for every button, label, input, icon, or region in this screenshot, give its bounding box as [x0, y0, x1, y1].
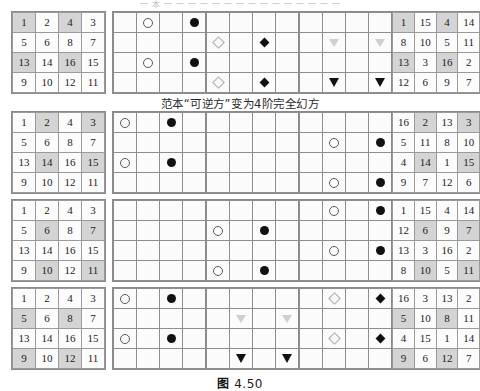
marker-cell-empty [369, 113, 392, 133]
number-cell: 3 [82, 113, 105, 133]
marker-cell-empty [276, 133, 299, 153]
number-cell: 7 [82, 221, 105, 241]
marker-cell-empty [369, 221, 392, 241]
circle-fill-glyph [376, 206, 385, 215]
triangle-open-glyph [236, 315, 246, 323]
number-cell: 9 [393, 349, 415, 369]
number-grid: 12435687131416159101211 [12, 288, 105, 369]
marker-cell-empty [230, 329, 253, 349]
number-cell: 16 [59, 241, 82, 261]
marker-cell-empty [183, 133, 206, 153]
marker-cell-circle-open [207, 221, 230, 241]
number-cell: 2 [36, 201, 59, 221]
grid-row4-markers-diamonds [299, 288, 392, 369]
marker-cell-empty [160, 349, 183, 369]
marker-cell-triangle-open [369, 33, 392, 53]
marker-cell-empty [183, 113, 206, 133]
triangle-fill-icon [323, 73, 345, 92]
circle-open-icon [137, 13, 159, 32]
marker-cell-empty [346, 13, 369, 33]
grid-row [207, 53, 299, 73]
marker-cell-empty [253, 153, 276, 173]
circle-open-glyph [329, 138, 339, 148]
marker-cell-empty [346, 113, 369, 133]
marker-cell-empty [207, 53, 230, 73]
number-cell: 15 [458, 153, 480, 173]
number-cell: 4 [59, 113, 82, 133]
number-cell: 6 [36, 33, 59, 53]
marker-cell-empty [160, 73, 183, 93]
circle-fill-icon [160, 289, 182, 308]
number-cell: 14 [36, 153, 59, 173]
number-cell: 11 [82, 173, 105, 193]
marker-grid [206, 112, 299, 193]
marker-cell-empty [276, 289, 299, 309]
number-cell: 15 [82, 53, 105, 73]
number-cell: 8 [393, 261, 415, 281]
number-cell: 11 [458, 309, 480, 329]
grid-row4-numbers-left: 12435687131416159101211 [12, 288, 105, 369]
scanned-header-fragment: 一 本 一 一 一 一 一 一 一 一 一 一 一 一 一 一 一 [0, 0, 480, 9]
figure-page: 1243568713141615910121111541481051113316… [0, 9, 480, 391]
marker-cell-empty [207, 153, 230, 173]
marker-cell-empty [230, 289, 253, 309]
number-cell: 2 [458, 53, 480, 73]
number-cell: 14 [458, 13, 480, 33]
grid-row: 96127 [393, 349, 480, 369]
marker-cell-empty [346, 349, 369, 369]
grid-row: 415114 [393, 329, 480, 349]
circle-open-icon [114, 153, 136, 172]
grid-row [114, 133, 206, 153]
diamond-fill-glyph [259, 78, 269, 88]
marker-cell-empty [207, 13, 230, 33]
grid-row [114, 173, 206, 193]
circle-open-icon [114, 113, 136, 132]
triangle-fill-glyph [236, 354, 246, 363]
marker-cell-empty [137, 329, 160, 349]
number-cell: 6 [36, 221, 59, 241]
number-cell: 4 [59, 201, 82, 221]
triangle-open-icon [230, 309, 252, 328]
marker-cell-empty [253, 173, 276, 193]
number-cell: 12 [59, 261, 82, 281]
number-cell: 11 [458, 261, 480, 281]
number-cell: 8 [59, 309, 82, 329]
number-cell: 6 [414, 73, 436, 93]
number-cell: 12 [59, 73, 82, 93]
number-cell: 7 [82, 133, 105, 153]
grid-row [300, 13, 392, 33]
number-cell: 14 [458, 201, 480, 221]
marker-cell-empty [346, 309, 369, 329]
marker-cell-empty [253, 133, 276, 153]
marker-cell-empty [207, 309, 230, 329]
circle-fill-glyph [167, 158, 176, 167]
marker-cell-empty [300, 349, 323, 369]
number-grid: 12435687131416159101211 [12, 112, 105, 193]
marker-cell-empty [137, 153, 160, 173]
marker-cell-empty [369, 349, 392, 369]
number-cell: 9 [13, 73, 36, 93]
circle-open-glyph [120, 158, 130, 168]
number-cell: 1 [436, 329, 458, 349]
marker-cell-empty [207, 241, 230, 261]
marker-grid [299, 112, 392, 193]
marker-grid [299, 12, 392, 93]
number-grid: 16313251081141511496127 [392, 288, 480, 369]
marker-cell-circle-open [137, 13, 160, 33]
marker-cell-empty [346, 221, 369, 241]
marker-cell-empty [300, 153, 323, 173]
grid-row [300, 201, 392, 221]
circle-open-glyph [329, 178, 339, 188]
grid-row [207, 329, 299, 349]
grid-row: 115414 [393, 13, 480, 33]
marker-cell-empty [183, 241, 206, 261]
number-cell: 13 [13, 53, 36, 73]
number-cell: 2 [458, 289, 480, 309]
grid-row [300, 309, 392, 329]
marker-cell-empty [114, 33, 137, 53]
marker-cell-empty [253, 289, 276, 309]
grid-row [207, 309, 299, 329]
marker-cell-empty [183, 201, 206, 221]
circle-fill-glyph [167, 334, 176, 343]
marker-cell-empty [160, 309, 183, 329]
